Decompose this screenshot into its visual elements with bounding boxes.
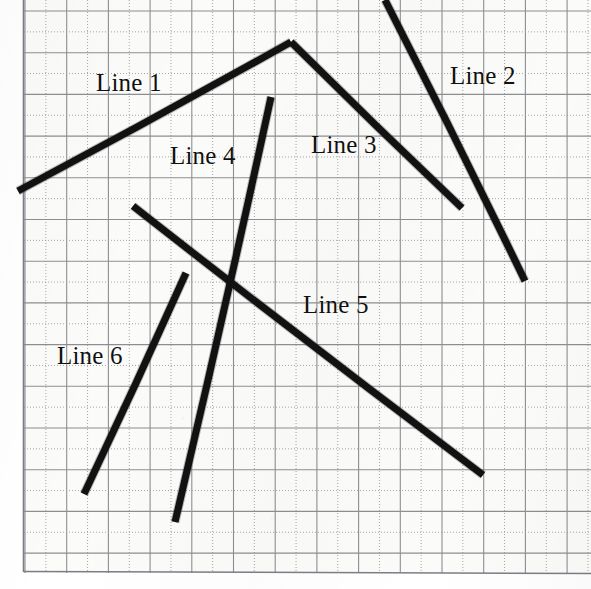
- line-2: [385, 0, 525, 281]
- line-1: [18, 42, 291, 191]
- line-5-label: Line 5: [303, 292, 369, 317]
- line-1-label: Line 1: [96, 70, 162, 95]
- line-1-stroke: [18, 42, 291, 191]
- paper-margin-bottom: [0, 573, 591, 589]
- line-6-stroke: [84, 273, 186, 494]
- line-3-label: Line 3: [311, 132, 377, 157]
- line-4-label: Line 4: [170, 143, 236, 168]
- paper-margin-left: [0, 0, 23, 589]
- line-5: [133, 206, 483, 475]
- line-2-label: Line 2: [450, 63, 516, 88]
- line-5-stroke: [133, 206, 483, 475]
- line-6: [84, 273, 186, 494]
- line-6-label: Line 6: [57, 343, 123, 368]
- line-2-stroke: [385, 0, 525, 281]
- line-diagram-figure: Line 1 Line 2 Line 3 Line 4 Line 5 Line …: [0, 0, 591, 589]
